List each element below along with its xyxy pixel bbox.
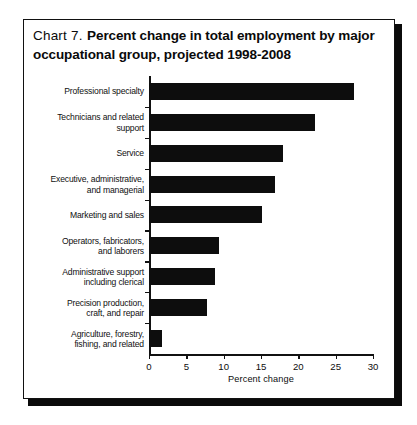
bar	[149, 237, 219, 254]
category-label: Technicians and related support	[26, 112, 144, 133]
bar-row: Technicians and related support	[149, 107, 373, 138]
bar	[149, 330, 162, 347]
x-axis-tick	[336, 354, 337, 359]
category-label: Executive, administrative, and manageria…	[26, 174, 144, 195]
y-axis-tick	[145, 200, 149, 201]
x-axis-tick	[261, 354, 262, 359]
y-axis-tick	[145, 230, 149, 231]
x-axis-tick	[149, 354, 150, 359]
x-axis-tick-label: 30	[368, 361, 379, 372]
chart-label: Chart 7.	[33, 28, 83, 43]
category-label: Marketing and sales	[26, 210, 144, 220]
y-axis-tick	[145, 323, 149, 324]
category-label: Service	[26, 148, 144, 158]
category-label: Professional specialty	[26, 86, 144, 96]
x-axis-tick-label: 20	[293, 361, 304, 372]
category-label: Operators, fabricators, and laborers	[26, 235, 144, 256]
bar	[149, 268, 215, 285]
y-axis-tick	[145, 261, 149, 262]
bar-row: Precision production, craft, and repair	[149, 292, 373, 323]
bar	[149, 83, 354, 100]
bar	[149, 145, 283, 162]
y-axis-tick	[145, 138, 149, 139]
x-axis-title: Percent change	[228, 374, 294, 384]
plot-area: Professional specialtyTechnicians and re…	[149, 76, 373, 354]
x-axis-tick-label: 0	[146, 361, 151, 372]
bar-row: Agriculture, forestry, fishing, and rela…	[149, 323, 373, 354]
x-axis-tick-label: 15	[256, 361, 267, 372]
bar	[149, 176, 275, 193]
x-axis-tick	[298, 354, 299, 359]
x-axis-tick	[224, 354, 225, 359]
chart-title-text: Percent change in total employment by ma…	[33, 28, 375, 62]
x-axis-tick-label: 10	[218, 361, 229, 372]
y-axis-tick	[145, 169, 149, 170]
bar-row: Executive, administrative, and manageria…	[149, 169, 373, 200]
bar	[149, 114, 315, 131]
category-label: Precision production, craft, and repair	[26, 297, 144, 318]
bar-row: Marketing and sales	[149, 200, 373, 231]
category-label: Agriculture, forestry, fishing, and rela…	[26, 328, 144, 349]
y-axis-tick	[145, 292, 149, 293]
category-label: Administrative support including clerica…	[26, 266, 144, 287]
bar-row: Administrative support including clerica…	[149, 261, 373, 292]
bar-row: Operators, fabricators, and laborers	[149, 230, 373, 261]
bar	[149, 206, 262, 223]
x-axis-tick-label: 5	[184, 361, 189, 372]
bar	[149, 299, 207, 316]
bar-row: Service	[149, 138, 373, 169]
x-axis-tick	[373, 354, 374, 359]
y-axis-tick	[145, 107, 149, 108]
chart-frame: Chart 7. Percent change in total employm…	[23, 19, 395, 399]
x-axis-tick	[186, 354, 187, 359]
x-axis-tick-label: 25	[330, 361, 341, 372]
chart-page: Chart 7. Percent change in total employm…	[0, 0, 417, 425]
chart-title: Chart 7. Percent change in total employm…	[33, 26, 385, 63]
bar-row: Professional specialty	[149, 76, 373, 107]
